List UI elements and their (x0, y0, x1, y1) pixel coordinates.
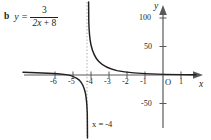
y-axis-arrowhead (159, 5, 167, 15)
y-tick-label-50: 50 (144, 43, 152, 51)
origin-label: O (165, 78, 171, 87)
x-axis-label: x (199, 80, 203, 90)
x-tick-label--2: -2 (122, 78, 129, 86)
y-axis-label: y (154, 2, 158, 12)
x-tick-label--1: -1 (140, 78, 147, 86)
x-tick-label--4: -4 (86, 78, 93, 86)
asymptote-label: x = -4 (92, 120, 112, 129)
figure-container: b y = 3 2x + 8 (0, 0, 211, 140)
y-tick-label--50: -50 (141, 100, 152, 108)
x-tick-label--3: -3 (104, 78, 111, 86)
x-tick-label-1: 1 (179, 78, 183, 86)
y-tick-label-100: 100 (139, 14, 151, 22)
x-tick-label--6: -6 (50, 78, 57, 86)
x-tick-label--5: -5 (68, 78, 75, 86)
